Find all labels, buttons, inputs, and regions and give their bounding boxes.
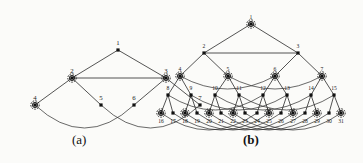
tree-edge xyxy=(251,24,298,53)
node-label-5: 5 xyxy=(99,94,103,101)
graph-node[interactable] xyxy=(198,103,201,106)
graph-node[interactable] xyxy=(116,48,119,51)
graph-node[interactable] xyxy=(226,74,229,77)
curved-edge-level3 xyxy=(215,95,311,110)
tree-edge xyxy=(180,53,204,76)
graph-node[interactable] xyxy=(202,51,205,54)
node-label-3: 3 xyxy=(164,67,168,74)
node-label-25: 25 xyxy=(266,118,272,124)
graph-node[interactable] xyxy=(33,103,36,106)
node-label-5: 5 xyxy=(227,66,230,72)
graph-node[interactable] xyxy=(285,93,288,96)
curved-edge xyxy=(101,105,200,128)
graph-node[interactable] xyxy=(261,93,264,96)
tree-edge xyxy=(275,53,298,76)
graph-node[interactable] xyxy=(164,76,167,79)
graph-node[interactable] xyxy=(171,111,174,114)
graph-node[interactable] xyxy=(178,74,181,77)
label-layer-a: 1234567 xyxy=(33,39,202,101)
graph-node[interactable] xyxy=(195,111,198,114)
node-label-22: 22 xyxy=(230,118,236,124)
label-layer-b: 1234567891011121314151617181920212223242… xyxy=(158,14,344,125)
tree-edge xyxy=(204,53,228,76)
graph-node[interactable] xyxy=(249,22,252,25)
graph-node[interactable] xyxy=(303,111,306,114)
node-label-29: 29 xyxy=(314,118,320,124)
node-label-6: 6 xyxy=(132,94,136,101)
node-label-1: 1 xyxy=(116,39,119,46)
tree-edge xyxy=(35,78,72,105)
tree-edge xyxy=(72,50,118,78)
node-label-15: 15 xyxy=(331,85,337,91)
graph-node[interactable] xyxy=(219,111,222,114)
node-layer-a xyxy=(31,48,202,109)
graph-node[interactable] xyxy=(243,111,246,114)
node-label-28: 28 xyxy=(302,118,308,124)
tree-edge xyxy=(204,24,251,53)
tree-edge xyxy=(134,78,166,105)
node-label-11: 11 xyxy=(236,85,242,91)
graph-figure-svg: 1234567123456789101112131415161718192021… xyxy=(0,0,363,163)
graph-node[interactable] xyxy=(267,111,270,114)
graph-node[interactable] xyxy=(332,93,335,96)
node-layer-b xyxy=(157,20,345,117)
graph-node[interactable] xyxy=(132,103,135,106)
node-label-8: 8 xyxy=(167,85,170,91)
graph-node[interactable] xyxy=(207,111,210,114)
graph-node[interactable] xyxy=(315,111,318,114)
graph-node[interactable] xyxy=(291,111,294,114)
graph-node[interactable] xyxy=(320,74,323,77)
graph-node[interactable] xyxy=(255,111,258,114)
node-label-27: 27 xyxy=(290,118,296,124)
edge-layer-a xyxy=(35,50,200,128)
graph-node[interactable] xyxy=(159,111,162,114)
node-label-4: 4 xyxy=(33,94,37,101)
edge-layer-b xyxy=(161,24,341,130)
node-label-4: 4 xyxy=(179,66,182,72)
node-label-7: 7 xyxy=(321,66,324,72)
node-label-26: 26 xyxy=(278,118,284,124)
tree-edge xyxy=(118,50,166,78)
curved-edge-level3 xyxy=(191,95,287,110)
node-label-9: 9 xyxy=(190,85,193,91)
curved-edge xyxy=(35,105,134,128)
graph-node[interactable] xyxy=(309,93,312,96)
node-label-23: 23 xyxy=(242,118,248,124)
graph-node[interactable] xyxy=(231,111,234,114)
node-label-6: 6 xyxy=(274,66,277,72)
node-label-24: 24 xyxy=(254,118,260,124)
graph-node[interactable] xyxy=(166,93,169,96)
node-label-2: 2 xyxy=(70,67,74,74)
node-label-1: 1 xyxy=(250,14,253,20)
graph-node[interactable] xyxy=(189,93,192,96)
graph-node[interactable] xyxy=(296,51,299,54)
node-label-2: 2 xyxy=(203,43,206,49)
graph-node[interactable] xyxy=(99,103,102,106)
graph-node[interactable] xyxy=(70,76,73,79)
node-label-20: 20 xyxy=(206,118,212,124)
figure-container: 1234567123456789101112131415161718192021… xyxy=(0,0,363,163)
tree-edge xyxy=(298,53,322,76)
graph-node[interactable] xyxy=(327,111,330,114)
node-label-14: 14 xyxy=(308,85,314,91)
node-label-18: 18 xyxy=(182,118,188,124)
graph-node[interactable] xyxy=(279,111,282,114)
graph-node[interactable] xyxy=(237,93,240,96)
node-label-13: 13 xyxy=(284,85,290,91)
node-label-19: 19 xyxy=(194,118,200,124)
panel-b: 1234567891011121314151617181920212223242… xyxy=(157,14,345,131)
node-label-10: 10 xyxy=(212,85,218,91)
panel-a: 1234567 xyxy=(31,39,202,129)
graph-node[interactable] xyxy=(273,74,276,77)
node-label-31: 31 xyxy=(338,118,344,124)
tree-edge xyxy=(166,78,200,105)
node-label-21: 21 xyxy=(218,118,224,124)
graph-node[interactable] xyxy=(339,111,342,114)
graph-node[interactable] xyxy=(183,111,186,114)
node-label-12: 12 xyxy=(260,85,266,91)
node-label-17: 17 xyxy=(170,118,176,124)
node-label-30: 30 xyxy=(326,118,332,124)
graph-node[interactable] xyxy=(213,93,216,96)
tree-edge xyxy=(72,78,101,105)
node-label-16: 16 xyxy=(158,118,164,124)
